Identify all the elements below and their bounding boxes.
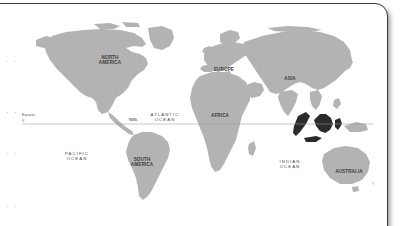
land-new-zealand bbox=[372, 178, 374, 188]
land-new-guinea bbox=[344, 122, 368, 132]
land-central-america bbox=[108, 112, 134, 135]
land-indochina bbox=[310, 90, 322, 110]
landmass-group bbox=[36, 22, 374, 200]
margin-mark bbox=[7, 152, 16, 155]
margin-dot bbox=[15, 112, 16, 113]
world-map-graphic bbox=[22, 14, 374, 210]
margin-dot bbox=[7, 61, 8, 62]
margin-dot bbox=[7, 206, 8, 207]
world-map: NORTH AMERICA SOUTH AMERICA EUROPE AFRIC… bbox=[22, 14, 374, 210]
land-africa bbox=[190, 72, 250, 172]
margin-mark bbox=[7, 205, 16, 208]
land-arctic-islands bbox=[94, 23, 120, 29]
margin-dot bbox=[15, 153, 16, 154]
land-siberia bbox=[268, 26, 322, 32]
margin-dot bbox=[15, 61, 16, 62]
margin-dot bbox=[7, 153, 8, 154]
land-australia bbox=[322, 146, 370, 184]
land-north-america bbox=[44, 29, 148, 114]
land-india bbox=[278, 90, 298, 116]
land-south-america bbox=[126, 132, 170, 200]
margin-mark bbox=[7, 111, 16, 114]
land-greenland bbox=[148, 26, 174, 50]
land-madagascar bbox=[248, 141, 256, 156]
land-tasmania bbox=[352, 186, 359, 192]
margin-dot bbox=[7, 112, 8, 113]
screen: NORTH AMERICA SOUTH AMERICA EUROPE AFRIC… bbox=[0, 0, 401, 226]
land-arctic-islands bbox=[122, 22, 140, 27]
land-indonesia-highlight bbox=[314, 114, 333, 133]
margin-dot bbox=[15, 206, 16, 207]
land-philippines bbox=[333, 98, 341, 109]
land-caribbean bbox=[128, 118, 138, 121]
margin-mark bbox=[7, 60, 16, 63]
land-java-highlight bbox=[304, 136, 322, 142]
